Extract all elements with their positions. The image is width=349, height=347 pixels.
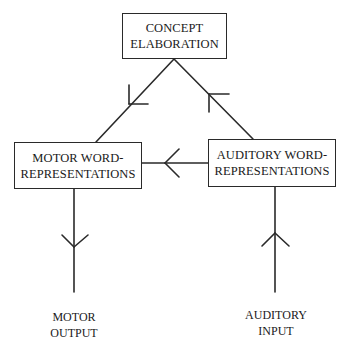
arrow-down-icon (62, 235, 88, 247)
terminal-label-line: OUTPUT (44, 325, 104, 341)
edge-concept-to-motor-word (96, 59, 174, 142)
terminal-label-line: AUDITORY (240, 307, 312, 323)
edge-auditory-word-to-concept (174, 59, 253, 139)
node-label-line: ELABORATION (130, 36, 219, 52)
node-motor-word-representations: MOTOR WORD- REPRESENTATIONS (14, 142, 142, 189)
node-label-line: MOTOR WORD- (32, 150, 123, 166)
node-label-line: REPRESENTATIONS (214, 163, 329, 179)
terminal-label-line: INPUT (240, 323, 312, 339)
node-label-line: REPRESENTATIONS (20, 166, 135, 182)
terminal-motor-output: MOTOR OUTPUT (44, 309, 104, 341)
terminal-auditory-input: AUDITORY INPUT (240, 307, 312, 339)
node-concept-elaboration: CONCEPT ELABORATION (122, 13, 227, 59)
node-auditory-word-representations: AUDITORY WORD- REPRESENTATIONS (208, 139, 336, 187)
terminal-label-line: MOTOR (44, 309, 104, 325)
node-label-line: CONCEPT (146, 20, 204, 36)
node-label-line: AUDITORY WORD- (217, 147, 328, 163)
arrow-down-left-icon (129, 85, 148, 104)
